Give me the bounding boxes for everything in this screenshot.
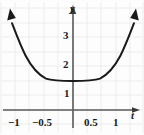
x-tick-label-1: 1 — [113, 117, 119, 128]
x-tick-label-0-5: 0.5 — [84, 117, 98, 128]
curve-right-arrowhead — [130, 9, 139, 21]
y-tick-label-1: 1 — [64, 88, 70, 99]
y-axis-name: y — [70, 3, 75, 14]
x-axis-name: t — [131, 110, 134, 121]
plot-layer — [0, 0, 144, 135]
curve-left-arrowhead — [7, 9, 16, 21]
x-tick-label-neg-0-5: −0.5 — [32, 117, 52, 128]
graph-figure: −1 −0.5 0.5 1 1 2 3 y t — [0, 0, 144, 135]
y-tick-label-3: 3 — [63, 30, 69, 41]
x-tick-label-neg-1: −1 — [8, 117, 20, 128]
y-tick-label-2: 2 — [63, 59, 69, 70]
